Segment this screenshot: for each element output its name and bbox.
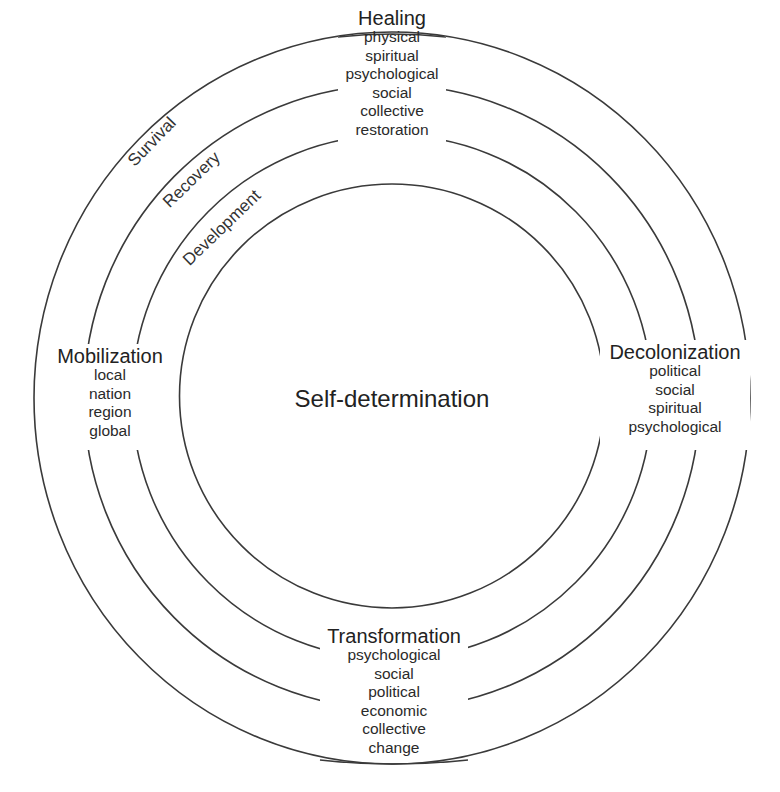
quadrant-item: collective [310,720,478,739]
quadrant-item: collective [312,102,472,121]
quadrant-item: spiritual [312,47,472,66]
quadrant-top-healing: Healing physical spiritual psychological… [312,8,472,140]
quadrant-bottom-transformation: Transformation psychological social poli… [310,626,478,758]
quadrant-item: social [312,84,472,103]
quadrant-item: economic [310,702,478,721]
quadrant-item: political [310,683,478,702]
quadrant-item: local [40,366,180,385]
quadrant-item: physical [312,28,472,47]
quadrant-item: global [40,422,180,441]
quadrant-item: psychological [600,418,750,437]
quadrant-title: Mobilization [40,346,180,366]
quadrant-item: restoration [312,121,472,140]
quadrant-item: change [310,739,478,758]
center-label-self-determination: Self-determination [0,385,780,413]
quadrant-item: social [310,665,478,684]
quadrant-title: Decolonization [600,342,750,362]
quadrant-title: Transformation [310,626,478,646]
quadrant-item: psychological [310,646,478,665]
quadrant-title: Healing [312,8,472,28]
quadrant-item: psychological [312,65,472,84]
quadrant-item: political [600,362,750,381]
